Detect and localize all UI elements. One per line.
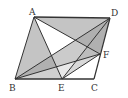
segment-DA — [34, 17, 110, 18]
label-F: F — [103, 50, 109, 60]
label-B: B — [9, 83, 16, 93]
label-A: A — [28, 7, 36, 17]
label-C: C — [91, 83, 98, 93]
label-E: E — [58, 83, 65, 93]
label-D: D — [111, 8, 118, 18]
geometry-diagram: A D B E C F — [0, 0, 128, 98]
